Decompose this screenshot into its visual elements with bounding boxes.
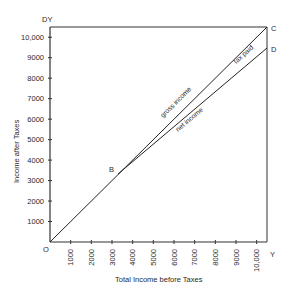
x-tick-label: 1000 — [66, 249, 75, 266]
point-d-label: D — [271, 45, 277, 54]
point-c-label: C — [271, 24, 277, 33]
x-tick-label: 7000 — [190, 249, 199, 266]
x-ticks: 10002000300040005000600070008000900010,0… — [66, 240, 261, 272]
net-income-label: net income — [174, 106, 204, 133]
x-tick-label: 3000 — [108, 249, 117, 266]
y-tick-label: 5000 — [27, 135, 44, 144]
tax-paid-label: tax paid — [232, 43, 255, 65]
y-tick-label: 9000 — [27, 53, 44, 62]
point-b-label: B — [109, 165, 114, 174]
x-tick-label: 8000 — [211, 249, 220, 266]
x-axis-title: Total Income before Taxes — [115, 275, 203, 284]
origin-label: O — [43, 245, 49, 254]
x-tick-label: 5000 — [149, 249, 158, 266]
y-tick-label: 6000 — [27, 115, 44, 124]
dy-label: DY — [42, 15, 52, 24]
y-tick-label: 8000 — [27, 74, 44, 83]
x-tick-label: 2000 — [87, 249, 96, 266]
x-tick-label: 4000 — [128, 249, 137, 266]
x-tick-label: 10,000 — [252, 249, 261, 272]
y-tick-label: 2000 — [27, 197, 44, 206]
y-tick-label: 4000 — [27, 156, 44, 165]
x-tick-label: 9000 — [232, 249, 241, 266]
x-tick-label: 6000 — [170, 249, 179, 266]
y-axis-title: Income after Taxes — [12, 120, 21, 183]
y-point-label: Y — [270, 250, 275, 259]
y-tick-label: 7000 — [27, 94, 44, 103]
y-tick-label: 10,000 — [21, 33, 44, 42]
y-tick-label: 3000 — [27, 176, 44, 185]
y-tick-label: 1000 — [27, 217, 44, 226]
income-tax-chart: 10002000300040005000600070008000900010,0… — [0, 0, 290, 296]
y-ticks: 10002000300040005000600070008000900010,0… — [21, 33, 52, 226]
